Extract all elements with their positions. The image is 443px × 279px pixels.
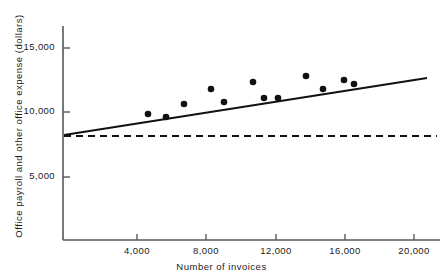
data-point <box>303 73 310 80</box>
x-axis-title: Number of invoices <box>0 261 443 272</box>
x-tick-label-16000: 16,000 <box>315 245 375 256</box>
y-axis-title-wrapper: Office payroll and other office expense … <box>13 1 29 251</box>
data-point <box>181 101 188 108</box>
data-point <box>221 99 228 106</box>
chart-figure: 15,000 10,000 5,000 4,000 8,000 12,000 1… <box>0 0 443 279</box>
data-point <box>208 86 215 93</box>
y-axis-ticks <box>63 48 70 177</box>
regression-solid-line <box>64 78 427 135</box>
data-point <box>351 81 358 88</box>
data-points <box>145 73 358 121</box>
axis-lines <box>63 26 440 240</box>
y-axis-title: Office payroll and other office expense … <box>13 1 24 251</box>
data-point <box>320 86 327 93</box>
data-point <box>275 95 282 102</box>
data-point <box>145 111 152 118</box>
x-axis-ticks <box>137 234 414 240</box>
y-tick-label-15000: 15,000 <box>3 41 55 52</box>
x-tick-label-4000: 4,000 <box>107 245 167 256</box>
data-point <box>250 79 257 86</box>
data-point <box>261 95 268 102</box>
x-tick-label-8000: 8,000 <box>176 245 236 256</box>
y-tick-label-10000: 10,000 <box>3 105 55 116</box>
y-tick-label-5000: 5,000 <box>3 170 55 181</box>
data-point <box>341 77 348 84</box>
scatter-plot-canvas <box>0 0 443 279</box>
data-point <box>163 114 170 121</box>
x-tick-label-12000: 12,000 <box>246 245 306 256</box>
x-tick-label-20000: 20,000 <box>384 245 443 256</box>
